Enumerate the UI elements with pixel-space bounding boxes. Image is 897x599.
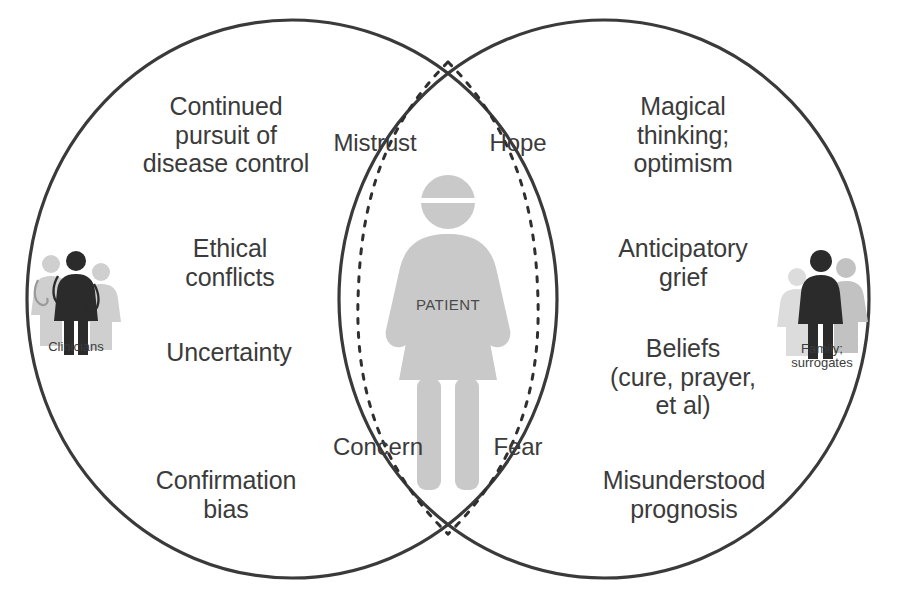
- left-item-1: Ethical conflicts: [140, 234, 320, 291]
- shared-label-mistrust: Mistrust: [315, 129, 435, 156]
- clinicians-caption-line-1: Clinicians: [26, 340, 126, 354]
- family-caption-line-2: surrogates: [772, 356, 872, 370]
- family-actor-caption: Family; surrogates: [772, 342, 872, 371]
- clinicians-actor-caption: Clinicians: [26, 340, 126, 354]
- right-item-1: Anticipatory grief: [578, 234, 788, 291]
- right-item-2: Beliefs (cure, prayer, et al): [572, 334, 794, 420]
- patient-label: PATIENT: [398, 296, 498, 313]
- shared-label-hope: Hope: [470, 129, 566, 156]
- family-caption-line-1: Family;: [772, 342, 872, 356]
- right-item-3: Misunderstood prognosis: [566, 466, 802, 523]
- shared-label-concern: Concern: [316, 433, 440, 460]
- shared-label-fear: Fear: [472, 433, 564, 460]
- left-item-2: Uncertainty: [124, 338, 334, 367]
- venn-diagram-canvas: Continued pursuit of disease control Eth…: [0, 0, 897, 599]
- right-item-0: Magical thinking; optimism: [588, 92, 778, 178]
- left-item-0: Continued pursuit of disease control: [116, 92, 336, 178]
- left-item-3: Confirmation bias: [116, 466, 336, 523]
